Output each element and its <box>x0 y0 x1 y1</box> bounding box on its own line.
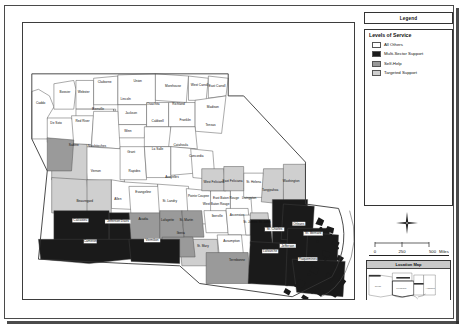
parish-label-text: West Carroll <box>191 83 209 87</box>
parish-label-text: St. Charles <box>267 227 283 231</box>
parish-label: Madison <box>207 105 219 109</box>
legend-label-multi-sector-support: Multi-Sector Support <box>384 52 423 56</box>
parish-label: Franklin <box>180 118 192 122</box>
parish-label: Avoyelles <box>165 175 179 179</box>
parish-label-text: Tangipahoa <box>262 188 279 192</box>
parish-label: Grant <box>127 150 135 154</box>
parish-label-text: Vermilion <box>146 238 159 242</box>
main-map-canvas[interactable]: CaddoBossierWebsterClaiborneUnionMorehou… <box>23 23 354 299</box>
scale-units: Miles <box>439 249 449 254</box>
parish-label: Tangipahoa <box>262 188 279 192</box>
parish-label: West Feliciana <box>203 180 224 184</box>
parish-label-text: Plaquemines <box>298 257 317 261</box>
parish-label-text: St. Martin <box>179 218 193 222</box>
parish-label-text: Assumption <box>223 239 240 243</box>
parish-label-text: Union <box>134 79 143 83</box>
parish-label-text: La Salle <box>152 147 164 151</box>
page-shadow-bottom <box>7 321 459 324</box>
parish-label-text: Orleans <box>293 222 305 226</box>
parish-label-text: Bienville <box>92 107 104 111</box>
parish-label: Vernon <box>91 169 101 173</box>
parish-label-text: Vernon <box>91 169 101 173</box>
location-map-title: Location Map <box>396 263 422 267</box>
parish-label-text: Claiborne <box>98 80 112 84</box>
parish-label-text: West Feliciana <box>203 180 224 184</box>
parish-label: Natchitoches <box>88 144 107 148</box>
parish-label: Iberia <box>177 231 185 235</box>
parish-label: St. James <box>243 220 258 224</box>
parish-label-text: Franklin <box>180 118 192 122</box>
parish-label-text: St. Landry <box>162 199 177 203</box>
legend-label-self-help: Self-Help <box>384 62 402 66</box>
main-map-frame[interactable]: CaddoBossierWebsterClaiborneUnionMorehou… <box>22 22 355 300</box>
parish-label: Acadia <box>138 217 148 221</box>
parish-label: St. Landry <box>162 199 177 203</box>
legend-swatch-multi-sector-support <box>372 51 381 57</box>
parish-label-text: Tensas <box>206 123 217 127</box>
location-map-title-bar: Location Map <box>367 261 450 269</box>
svg-text:Louisiana: Louisiana <box>396 287 407 290</box>
parish-label: Bienville <box>92 107 104 111</box>
parish-label: Allen <box>114 197 121 201</box>
parish-label-text: St. Helena <box>246 180 261 184</box>
parish-label: Caldwell <box>152 119 164 123</box>
parish-label: West Carroll <box>191 83 209 87</box>
parish-label-text: West Baton Rouge <box>203 202 230 206</box>
legend-item-multi-sector-support[interactable]: Multi-Sector Support <box>369 50 448 58</box>
louisiana-choropleth: CaddoBossierWebsterClaiborneUnionMorehou… <box>23 23 354 299</box>
parish-label: East Carroll <box>209 84 226 88</box>
parish-label-text: Terrebonne <box>229 258 245 262</box>
parish-label: St. John <box>259 220 271 224</box>
parish-label-text: Concordia <box>189 154 204 158</box>
parish-label: Red River <box>75 119 90 123</box>
parish-label: Cameron <box>84 239 97 243</box>
scale-tick-500: 500 <box>429 249 437 254</box>
legend-swatch-self-help <box>372 61 381 67</box>
parish-label: De Soto <box>50 121 62 125</box>
parish-label: Catahoula <box>174 143 189 147</box>
parish-label: Sabine <box>69 143 79 147</box>
parish-label-text: Webster <box>78 90 91 94</box>
parish-label-text: Winn <box>124 129 131 133</box>
legend-item-self-help[interactable]: Self-Help <box>369 60 448 68</box>
parish-label-text: East Feliciana <box>223 179 243 183</box>
parish-label: Iberville <box>212 214 223 218</box>
parish-label: Lafourche <box>262 249 278 253</box>
parish-label-text: East Baton Rouge <box>213 196 239 200</box>
legend-item-targeted-support[interactable]: Targeted Support <box>369 69 448 77</box>
parish-label: Terrebonne <box>229 258 245 262</box>
legend-swatch-targeted-support <box>372 70 381 76</box>
parish-label: Livingston <box>242 196 257 200</box>
legend-header-box: Legend <box>364 12 453 24</box>
parish-label-text: Grant <box>127 150 135 154</box>
parish-label-text: Ouachita <box>147 102 160 106</box>
parish-label-text: Natchitoches <box>88 144 107 148</box>
legend-label-all-others: All Others <box>384 43 403 47</box>
legend-heading: Levels of Service <box>369 33 448 38</box>
parish-label: St. Mary <box>197 244 209 248</box>
parish-label: Assumption <box>223 239 240 243</box>
parish-label-text: Red River <box>75 119 90 123</box>
parish-label-text: Lincoln <box>121 97 131 101</box>
parish-label-text: Iberia <box>177 231 185 235</box>
parish-label: Richland <box>172 102 185 106</box>
parish-label: St. Helena <box>246 180 261 184</box>
parish-label-text: St. Mary <box>197 244 209 248</box>
parish-label-text: St. Bernard <box>305 231 321 235</box>
parish-label-text: Livingston <box>242 196 257 200</box>
parish-label: Caddo <box>36 101 46 105</box>
parish-label: Webster <box>78 90 91 94</box>
parish-label-text: Jefferson <box>281 244 294 248</box>
parish-label: Jefferson <box>280 244 296 248</box>
parish-label-text: Iberville <box>212 214 223 218</box>
parish-label: Bossier <box>60 90 72 94</box>
parish-label-text: St. James <box>243 220 258 224</box>
parish-label-text: Avoyelles <box>165 175 179 179</box>
location-map-inset[interactable]: Location Map <box>366 260 451 300</box>
parish-label-text: Allen <box>114 197 121 201</box>
parish-label-text: Lafayette <box>161 218 174 222</box>
parish-label: Concordia <box>189 154 204 158</box>
map-page: CaddoBossierWebsterClaiborneUnionMorehou… <box>0 0 462 329</box>
parish-label-text: Calcasieu <box>73 218 87 222</box>
legend-item-all-others[interactable]: All Others <box>369 41 448 49</box>
